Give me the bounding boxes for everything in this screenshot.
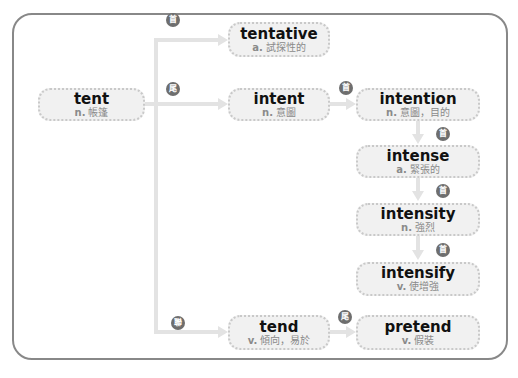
word: pretend <box>384 319 451 335</box>
word: intensity <box>381 206 456 222</box>
meaning: 強烈 <box>415 222 435 233</box>
part-of-speech: v. <box>397 281 407 292</box>
caption <box>40 2 290 8</box>
connector-intention-intense <box>416 121 420 135</box>
arrow-to-intensify <box>412 250 424 260</box>
word: tentative <box>240 26 318 42</box>
meaning: 試探性的 <box>266 42 306 53</box>
definition: v.使增強 <box>397 281 440 293</box>
definition: n.意圖 <box>262 107 296 119</box>
part-of-speech: n. <box>401 222 412 233</box>
node-tentative: tentative a.試探性的 <box>228 22 330 57</box>
node-pretend: pretend v.假裝 <box>356 315 480 350</box>
definition: n.帳篷 <box>75 107 109 119</box>
node-intent: intent n.意圖 <box>228 88 330 121</box>
badge-suffix-icon: 尾 <box>166 82 180 96</box>
badge-prefix-icon: 首 <box>436 243 450 257</box>
arrow-to-intention <box>346 98 356 110</box>
node-intense: intense a.緊張的 <box>356 145 480 178</box>
word: intensify <box>381 265 455 281</box>
word: tend <box>260 319 299 335</box>
arrow-to-pretend <box>346 326 356 338</box>
node-intensity: intensity n.強烈 <box>356 203 480 236</box>
badge-prefix-icon: 首 <box>436 127 450 141</box>
word: intent <box>253 91 304 107</box>
part-of-speech: a. <box>252 42 263 53</box>
definition: v.假裝 <box>402 335 435 347</box>
word: intense <box>387 148 450 164</box>
arrow-to-tend <box>218 326 228 338</box>
definition: a.試探性的 <box>252 42 306 54</box>
connector-to-tend <box>154 330 220 334</box>
arrow-to-intensity <box>412 191 424 201</box>
part-of-speech: n. <box>75 107 86 118</box>
arrow-to-intense <box>412 134 424 144</box>
connector-trunk <box>154 38 158 334</box>
node-intensify: intensify v.使增強 <box>356 262 480 296</box>
word: tent <box>74 91 109 107</box>
definition: v.傾向，易於 <box>248 335 311 347</box>
definition: a.緊張的 <box>396 164 440 176</box>
arrow-to-intent <box>218 98 228 110</box>
meaning: 使增強 <box>409 281 439 292</box>
connector-intense-intensity <box>416 178 420 192</box>
badge-prefix-icon: 首 <box>436 184 450 198</box>
connector-to-intent <box>154 102 220 106</box>
meaning: 意圖，目的 <box>400 107 450 118</box>
badge-prefix-icon: 首 <box>339 81 353 95</box>
meaning: 帳篷 <box>88 107 108 118</box>
word: intention <box>379 91 456 107</box>
node-tend: tend v.傾向，易於 <box>228 315 330 350</box>
diagram-frame <box>12 13 508 360</box>
node-tent: tent n.帳篷 <box>38 88 145 121</box>
definition: n.強烈 <box>401 222 435 234</box>
meaning: 傾向，易於 <box>260 335 310 346</box>
part-of-speech: n. <box>386 107 397 118</box>
node-intention: intention n.意圖，目的 <box>356 88 480 121</box>
part-of-speech: v. <box>248 335 258 346</box>
badge-suffix-icon: 尾 <box>338 310 352 324</box>
definition: n.意圖，目的 <box>386 107 450 119</box>
part-of-speech: n. <box>262 107 273 118</box>
badge-link-icon: 聯 <box>171 316 185 330</box>
arrow-to-tentative <box>218 34 228 46</box>
part-of-speech: a. <box>396 164 407 175</box>
connector-to-tentative <box>154 38 220 42</box>
part-of-speech: v. <box>402 335 412 346</box>
connector-intensity-intensify <box>416 236 420 251</box>
badge-prefix-icon: 首 <box>166 13 180 27</box>
meaning: 假裝 <box>414 335 434 346</box>
meaning: 意圖 <box>276 107 296 118</box>
meaning: 緊張的 <box>410 164 440 175</box>
